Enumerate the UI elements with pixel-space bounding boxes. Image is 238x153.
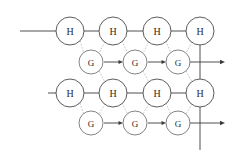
g-arrow-bot-1-2-head bbox=[119, 121, 124, 125]
g-row-bottom-group: G G G bbox=[79, 111, 225, 135]
diagonal-link-htop4-gtop3 bbox=[186, 42, 192, 53]
diagonal-link-htop3-gtop2 bbox=[143, 42, 149, 53]
node-label-h-bot-4: H bbox=[196, 88, 203, 99]
node-h-top-4[interactable]: H bbox=[186, 17, 214, 45]
node-label-h-top-1: H bbox=[66, 26, 73, 37]
node-g-bot-2[interactable]: G bbox=[123, 111, 147, 135]
hmm-gmm-lattice-diagram: H H H H G bbox=[0, 0, 238, 153]
node-h-bot-4[interactable]: H bbox=[186, 79, 214, 107]
node-g-top-3[interactable]: G bbox=[166, 50, 190, 74]
g-row-top-group: G G G bbox=[79, 50, 225, 74]
diagonal-link-hbot4-gbot3 bbox=[186, 104, 192, 114]
node-label-h-top-2: H bbox=[109, 26, 116, 37]
diagonal-link-htop3-gtop3 bbox=[166, 41, 171, 54]
h-row-top-group: H H H H bbox=[20, 17, 214, 45]
node-label-h-bot-1: H bbox=[66, 88, 73, 99]
node-g-top-2[interactable]: G bbox=[123, 50, 147, 74]
diagonal-link-hbot2-gbot1 bbox=[99, 104, 105, 114]
node-label-h-bot-3: H bbox=[153, 88, 160, 99]
diagonal-link-gtop3-hbot4 bbox=[186, 71, 192, 82]
diagonal-link-htop2-gtop1 bbox=[99, 42, 105, 53]
g-arrow-bot-2-3-head bbox=[162, 121, 167, 125]
diagram-canvas: H H H H G bbox=[0, 0, 238, 153]
node-h-top-3[interactable]: H bbox=[143, 17, 171, 45]
node-g-top-1[interactable]: G bbox=[79, 50, 103, 74]
g-arrow-top-2-3-head bbox=[162, 60, 167, 64]
diagonal-link-hbot2-gbot2 bbox=[122, 103, 128, 115]
node-label-g-bot-1: G bbox=[88, 119, 95, 129]
node-g-bot-3[interactable]: G bbox=[166, 111, 190, 135]
node-h-bot-2[interactable]: H bbox=[99, 79, 127, 107]
node-label-g-top-1: G bbox=[88, 58, 95, 68]
g-arrow-top-1-2-head bbox=[119, 60, 124, 64]
node-h-bot-3[interactable]: H bbox=[143, 79, 171, 107]
diagonal-link-gtop1-hbot2 bbox=[99, 71, 105, 82]
node-label-g-bot-2: G bbox=[132, 119, 139, 129]
node-h-top-2[interactable]: H bbox=[99, 17, 127, 45]
g-row-bottom-exit-arrow-head bbox=[220, 121, 225, 125]
node-label-g-top-2: G bbox=[132, 58, 139, 68]
node-label-h-bot-2: H bbox=[109, 88, 116, 99]
node-h-top-1[interactable]: H bbox=[56, 17, 84, 45]
diagonal-link-htop2-gtop2 bbox=[122, 41, 128, 54]
node-label-h-top-3: H bbox=[153, 26, 160, 37]
node-label-h-top-4: H bbox=[196, 26, 203, 37]
node-label-g-top-3: G bbox=[175, 58, 182, 68]
diagonal-link-hbot3-gbot3 bbox=[166, 103, 171, 115]
g-row-top-exit-arrow-head bbox=[220, 60, 225, 64]
diagonal-link-htop1-gtop1 bbox=[80, 41, 84, 54]
diagonal-link-gtop2-hbot3 bbox=[143, 71, 149, 82]
diagonal-link-hbot3-gbot2 bbox=[143, 104, 149, 114]
node-h-bot-1[interactable]: H bbox=[56, 79, 84, 107]
node-label-g-bot-3: G bbox=[175, 119, 182, 129]
node-g-bot-1[interactable]: G bbox=[79, 111, 103, 135]
h-row-bottom-group: H H H H bbox=[48, 79, 214, 107]
